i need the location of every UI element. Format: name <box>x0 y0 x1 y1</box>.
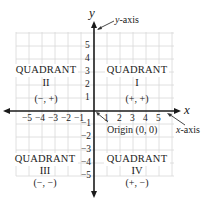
y-tick-label: −1 <box>81 119 91 129</box>
quadrant-signs: (+, −) <box>104 178 170 188</box>
quadrant-title: QUADRANT <box>12 154 78 165</box>
x-tick-label: 4 <box>143 114 148 124</box>
quadrant-numeral: I <box>105 78 169 89</box>
quadrant-i: QUADRANT <box>105 64 169 77</box>
x-tick-label: 1 <box>104 114 109 124</box>
quadrant-numeral: IV <box>104 166 170 177</box>
quadrant-iii: QUADRANT <box>12 153 78 166</box>
x-tick-label: 5 <box>156 114 161 124</box>
y-tick-label: 5 <box>85 41 90 51</box>
y-axis-down-arrow-icon <box>91 191 97 198</box>
x-tick-label: −3 <box>48 114 58 124</box>
quadrant-title: QUADRANT <box>14 65 78 76</box>
quadrant-signs: (−, +) <box>14 94 78 104</box>
quadrant-title: QUADRANT <box>104 154 170 165</box>
y-axis-label: y <box>89 6 95 19</box>
quadrant-iv: QUADRANT <box>104 153 170 166</box>
x-tick-label: −5 <box>22 114 32 124</box>
y-axis-callout: y-axis <box>115 15 139 25</box>
quadrant-numeral: II <box>14 78 78 89</box>
quadrant-signs: (−, −) <box>12 178 78 188</box>
x-tick-label: 3 <box>130 114 135 124</box>
y-tick-label: 3 <box>85 67 90 77</box>
x-axis-callout-text: -axis <box>180 124 199 135</box>
y-tick-label: 2 <box>85 80 90 90</box>
quadrant-signs: (+, +) <box>105 94 169 104</box>
x-axis-right-arrow-icon <box>174 108 181 114</box>
y-tick-label: −5 <box>81 171 91 181</box>
x-axis-callout: x-axis <box>176 125 200 135</box>
x-tick-label: −4 <box>35 114 45 124</box>
quadrant-ii: QUADRANT <box>14 64 78 77</box>
x-axis-label: x <box>184 103 190 116</box>
x-tick-label: −2 <box>61 114 71 124</box>
y-tick-label: −2 <box>81 132 91 142</box>
y-axis <box>91 21 97 198</box>
quadrant-numeral: III <box>12 166 78 177</box>
x-tick-label: 2 <box>117 114 122 124</box>
y-axis-up-arrow-icon <box>91 21 97 28</box>
quadrant-title: QUADRANT <box>105 65 169 76</box>
x-axis-left-arrow-icon <box>3 108 10 114</box>
y-tick-label: −4 <box>81 158 91 168</box>
origin-callout: Origin (0, 0) <box>107 125 157 135</box>
y-axis-callout-text: -axis <box>119 14 138 25</box>
y-tick-label: 4 <box>85 54 90 64</box>
y-tick-label: 1 <box>85 93 90 103</box>
y-tick-label: −3 <box>81 145 91 155</box>
